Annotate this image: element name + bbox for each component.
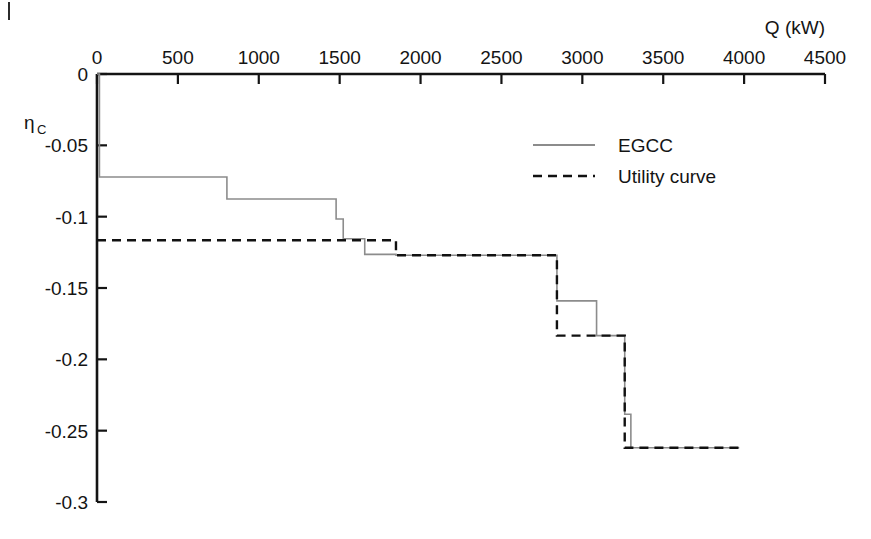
legend-label-utility-curve: Utility curve xyxy=(618,166,716,187)
x-axis-tick-label: 0 xyxy=(92,47,103,68)
y-axis-tick-label: -0.3 xyxy=(55,492,88,513)
y-axis-tick-label: -0.25 xyxy=(45,421,88,442)
series-line-utility-curve xyxy=(97,240,739,448)
x-axis-title: Q (kW) xyxy=(765,17,825,38)
x-axis-tick-label: 2500 xyxy=(480,47,522,68)
x-axis-tick-label: 3000 xyxy=(561,47,603,68)
x-axis-tick-label: 1500 xyxy=(319,47,361,68)
y-axis-tick-label: 0 xyxy=(77,64,88,85)
chart-legend: EGCCUtility curve xyxy=(533,135,716,187)
x-axis-tick-label: 500 xyxy=(162,47,194,68)
y-axis-title: η C xyxy=(24,112,46,137)
series-line-egcc xyxy=(97,74,739,448)
y-axis-title-subscript: C xyxy=(37,122,46,137)
y-axis-tick-label: -0.05 xyxy=(45,135,88,156)
x-axis-tick-label: 1000 xyxy=(238,47,280,68)
x-axis-tick-label: 2000 xyxy=(399,47,441,68)
y-axis-tick-label: -0.2 xyxy=(55,349,88,370)
y-axis-tick-label: -0.1 xyxy=(55,207,88,228)
figure-container: 050010001500200025003000350040004500 0-0… xyxy=(0,0,871,539)
page-corner-mark xyxy=(8,2,10,20)
x-axis-tick-label: 4000 xyxy=(723,47,765,68)
x-axis-ticks xyxy=(97,74,825,84)
y-axis-tick-label: -0.15 xyxy=(45,278,88,299)
axes-group xyxy=(97,74,825,502)
x-axis-tick-label: 4500 xyxy=(804,47,846,68)
y-axis-title-symbol: η xyxy=(24,112,35,133)
efficiency-vs-heat-load-chart: 050010001500200025003000350040004500 0-0… xyxy=(0,0,871,539)
y-axis-ticks xyxy=(97,74,107,502)
x-axis-tick-label: 3500 xyxy=(642,47,684,68)
legend-label-egcc: EGCC xyxy=(618,135,673,156)
x-axis-tick-labels: 050010001500200025003000350040004500 xyxy=(92,47,846,68)
y-axis-tick-labels: 0-0.05-0.1-0.15-0.2-0.25-0.3 xyxy=(45,64,88,513)
data-series-group xyxy=(97,74,739,448)
